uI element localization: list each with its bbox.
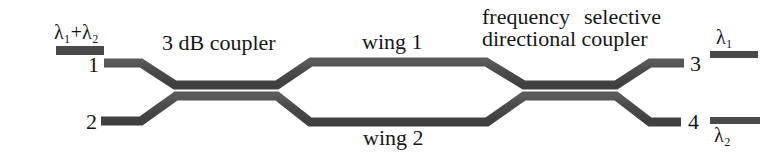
- waveguide-upper-arm: [104, 62, 684, 85]
- waveguide-schematic-figure: λ₁+λ₂ 1 2 3 dB coupler wing 1 wing 2 fre…: [0, 0, 782, 160]
- output-fiber-bar-lambda1: [710, 51, 758, 58]
- input-wavelengths-label: λ₁+λ₂: [54, 22, 99, 43]
- frequency-selective-directional-coupler-label: frequencyselective directional coupler: [482, 5, 661, 50]
- wing-1-label: wing 1: [362, 30, 423, 53]
- waveguide-lower-arm: [101, 96, 681, 122]
- port-1-label: 1: [88, 53, 99, 76]
- wing-2-label: wing 2: [363, 126, 424, 149]
- port-2-label: 2: [86, 110, 97, 133]
- output-lambda-2-label: λ₂: [714, 125, 731, 146]
- port-3-label: 3: [690, 52, 701, 75]
- 3db-coupler-label: 3 dB coupler: [162, 31, 276, 54]
- output-lambda-1-label: λ₁: [716, 27, 733, 48]
- port-4-label: 4: [688, 110, 699, 133]
- output-fiber-bar-lambda2: [710, 117, 760, 124]
- fsdc-line2: directional coupler: [482, 27, 661, 50]
